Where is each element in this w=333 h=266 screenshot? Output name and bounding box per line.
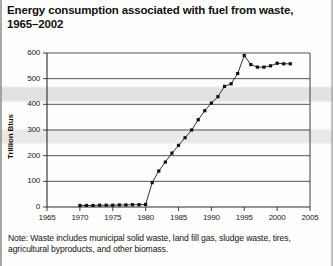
plot-area: [0, 40, 333, 220]
chart-figure: Trillion Btus 0100200300400500600 196519…: [0, 40, 333, 220]
chart-note: Note: Waste includes municipal solid was…: [8, 233, 320, 255]
chart-title: Energy consumption associated with fuel …: [7, 4, 319, 31]
